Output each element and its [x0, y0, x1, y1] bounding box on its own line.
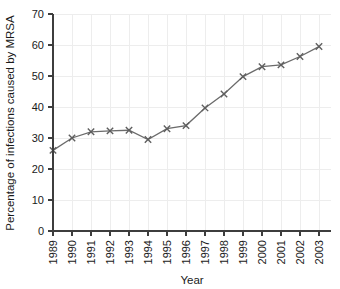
ytick-label-60: 60: [32, 39, 44, 51]
x-axis-tick-labels: 1989199019911992199319941995199619971998…: [47, 240, 325, 264]
xtick-label-1991: 1991: [85, 240, 97, 264]
ytick-label-20: 20: [32, 163, 44, 175]
xtick-label-1990: 1990: [66, 240, 78, 264]
x-axis-title: Year: [180, 274, 203, 286]
xtick-label-2000: 2000: [256, 240, 268, 264]
chart-canvas: 70 60 50 40 30 20 10 0 19891990199119921…: [0, 0, 340, 289]
xtick-label-1997: 1997: [199, 240, 211, 264]
xtick-label-1998: 1998: [218, 240, 230, 264]
ytick-label-40: 40: [32, 101, 44, 113]
xtick-label-2003: 2003: [313, 240, 325, 264]
y-axis-title: Percentage of infections caused by MRSA: [4, 15, 16, 231]
xtick-label-1992: 1992: [104, 240, 116, 264]
ytick-label-0: 0: [38, 225, 44, 237]
ytick-label-30: 30: [32, 132, 44, 144]
xtick-label-1994: 1994: [142, 240, 154, 264]
xtick-label-1996: 1996: [180, 240, 192, 264]
ytick-label-50: 50: [32, 70, 44, 82]
xtick-label-1995: 1995: [161, 240, 173, 264]
xtick-label-1999: 1999: [237, 240, 249, 264]
xtick-label-1993: 1993: [123, 240, 135, 264]
xtick-label-1989: 1989: [47, 240, 59, 264]
mrsa-line-chart: 70 60 50 40 30 20 10 0 19891990199119921…: [0, 0, 340, 289]
xtick-label-2001: 2001: [275, 240, 287, 264]
xtick-label-2002: 2002: [294, 240, 306, 264]
ytick-label-70: 70: [32, 8, 44, 20]
ytick-label-10: 10: [32, 194, 44, 206]
